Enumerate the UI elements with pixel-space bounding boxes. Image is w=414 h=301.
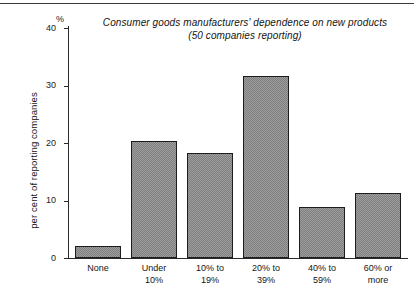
y-tick-label-10: 10 (14, 196, 56, 205)
bar-slot-40-to-59 (294, 26, 350, 258)
x-tick-label-60-or-more-line-2: more (343, 275, 413, 287)
bar-60-or-more (355, 193, 401, 258)
x-tick-label-40-to-59-line-1: 40% to (308, 263, 336, 273)
bar-slot-10-to-19 (182, 26, 238, 258)
x-tick-label-60-or-more-line-1: 60% or (364, 263, 393, 273)
y-tick-label-40: 40 (14, 24, 56, 33)
bar-slot-20-to-39 (238, 26, 294, 258)
bar-under-10 (131, 141, 177, 258)
bar-slot-none (70, 26, 126, 258)
plot-area: Consumer goods manufacturers' dependence… (0, 0, 414, 301)
figure-bar-chart: Consumer goods manufacturers' dependence… (0, 0, 414, 301)
x-tick-label-10-to-19-line-1: 10% to (196, 263, 224, 273)
x-tick-label-20-to-39-line-1: 20% to (252, 263, 280, 273)
x-tick-label-under-10-line-1: Under (142, 263, 167, 273)
bar-slot-under-10 (126, 26, 182, 258)
bar-slot-60-or-more (350, 26, 406, 258)
bar-series (68, 0, 408, 301)
y-tick-label-30: 30 (14, 81, 56, 90)
x-tick-label-60-or-more: 60% or more (343, 263, 413, 286)
x-tick-label-none-line-1: None (87, 263, 109, 273)
bar-10-to-19 (187, 153, 233, 258)
bar-40-to-59 (299, 207, 345, 258)
bar-20-to-39 (243, 76, 289, 258)
bar-none (75, 246, 121, 258)
y-axis-title: per cent of reporting companies (28, 66, 39, 256)
y-tick-label-0: 0 (14, 254, 56, 263)
y-tick-label-20: 20 (14, 139, 56, 148)
